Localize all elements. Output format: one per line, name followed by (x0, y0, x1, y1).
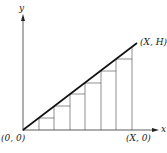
strip-rectangles (39, 47, 132, 130)
hypotenuse-line (23, 43, 137, 130)
y-axis-arrow-icon (21, 14, 25, 21)
y-axis-label: y (19, 4, 24, 13)
x-end-label: (X, 0) (126, 134, 151, 143)
origin-label: (0, 0) (1, 134, 25, 143)
x-axis-label: x (161, 125, 166, 134)
top-point-label: (X, H) (140, 38, 167, 47)
triangle-rectangles-diagram (0, 0, 167, 153)
x-axis-arrow-icon (152, 128, 159, 132)
